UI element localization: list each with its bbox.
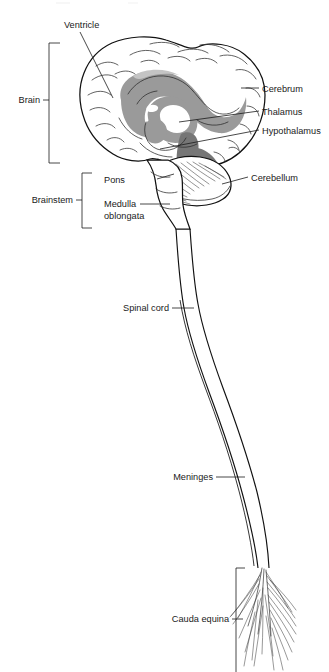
bracket-label-brain: Brain	[19, 95, 40, 105]
label-cauda-equina: Cauda equina	[172, 614, 230, 624]
label-cerebrum: Cerebrum	[262, 84, 303, 94]
label-ventricle: Ventricle	[64, 20, 99, 30]
bracket-brainstem	[82, 173, 92, 228]
label-medulla-2: oblongata	[104, 211, 145, 221]
bracket-label-brainstem: Brainstem	[32, 195, 74, 205]
bracket-brain	[49, 43, 60, 163]
spinal-cord-right-edge	[190, 229, 269, 568]
brain-spinal-cord-diagram: Ventricle Cerebrum Thalamus Hypothalamus…	[0, 0, 329, 672]
label-pons: Pons	[104, 175, 125, 185]
label-thalamus: Thalamus	[262, 107, 303, 117]
spinal-cord-group	[176, 229, 269, 568]
bracket-cauda-equina	[236, 568, 245, 672]
brain-group	[80, 37, 265, 178]
diagram-canvas: Ventricle Cerebrum Thalamus Hypothalamus…	[0, 0, 329, 672]
top-artifact	[56, 2, 138, 4]
label-meninges: Meninges	[173, 472, 213, 482]
label-medulla-1: Medulla	[104, 199, 137, 209]
hypothalamus-shade	[144, 119, 167, 143]
label-spinal-cord: Spinal cord	[123, 303, 169, 313]
label-cerebellum: Cerebellum	[251, 173, 298, 183]
label-hypothalamus: Hypothalamus	[262, 126, 321, 136]
